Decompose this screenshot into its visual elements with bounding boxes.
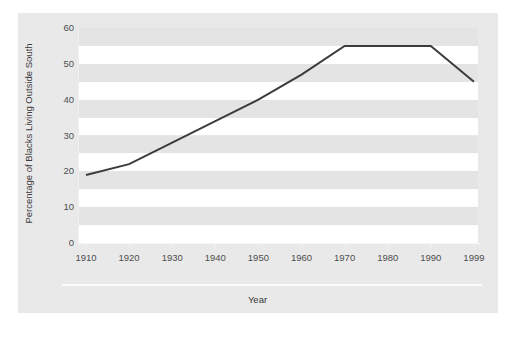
x-axis-tick-label: 1980	[365, 252, 411, 263]
x-axis-tick-mark	[258, 243, 259, 247]
x-axis-tick-label: 1960	[279, 252, 325, 263]
x-axis-tick-mark	[474, 243, 475, 247]
x-axis-tick-label: 1970	[322, 252, 368, 263]
y-axis-ticks: 0102030405060	[36, 0, 74, 340]
x-axis-tick-mark	[129, 243, 130, 247]
x-axis-tick-mark	[215, 243, 216, 247]
x-axis-tick-mark	[388, 243, 389, 247]
x-axis-tick-mark	[345, 243, 346, 247]
x-axis-tick-label: 1999	[451, 252, 497, 263]
y-axis-tick-label: 60	[40, 23, 74, 33]
y-axis-tick-label: 20	[40, 166, 74, 176]
x-axis-tick-label: 1930	[149, 252, 195, 263]
axis-separator-line	[62, 284, 482, 286]
data-series-line	[78, 28, 478, 243]
x-axis-tick-mark	[172, 243, 173, 247]
y-axis-tick-label: 50	[40, 59, 74, 69]
y-axis-tick-label: 40	[40, 95, 74, 105]
x-axis-tick-label: 1940	[192, 252, 238, 263]
x-axis-tick-mark	[302, 243, 303, 247]
y-axis-tick-label: 0	[40, 238, 74, 248]
y-axis-label: Percentage of Blacks Living Outside Sout…	[23, 44, 34, 224]
x-axis-tick-mark	[431, 243, 432, 247]
x-axis-label: Year	[0, 294, 515, 305]
x-axis-line	[78, 243, 480, 244]
x-axis-tick-label: 1950	[235, 252, 281, 263]
x-axis-tick-mark	[86, 243, 87, 247]
chart-figure: 0102030405060 Percentage of Blacks Livin…	[0, 0, 515, 340]
x-axis-tick-label: 1920	[106, 252, 152, 263]
y-axis-tick-label: 10	[40, 202, 74, 212]
x-axis-tick-label: 1910	[63, 252, 109, 263]
x-axis-tick-label: 1990	[408, 252, 454, 263]
y-axis-tick-label: 30	[40, 131, 74, 141]
